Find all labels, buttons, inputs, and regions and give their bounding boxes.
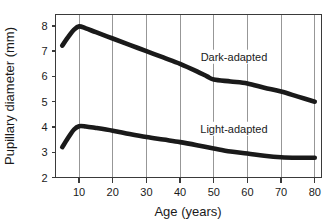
x-tick-label-10: 10 [73,186,85,198]
pupillary-diameter-chart: 1020304050607080 2345678 Dark-adaptedLig… [0,0,333,224]
y-tick-label-2: 2 [41,172,47,184]
x-tick-label-80: 80 [309,186,321,198]
curve-dark-adapted [62,26,315,101]
y-axis-tick-labels: 2345678 [41,20,47,184]
x-tick-label-30: 30 [140,186,152,198]
x-axis-tickmarks [79,178,315,183]
x-axis-title: Age (years) [154,204,221,219]
y-tick-label-5: 5 [41,96,47,108]
y-tick-label-3: 3 [41,146,47,158]
y-tick-label-6: 6 [41,70,47,82]
x-tick-label-40: 40 [174,186,186,198]
series-label-light-adapted: Light-adapted [200,123,267,135]
y-axis-title: Pupillary diameter (mm) [2,27,17,165]
y-tick-label-7: 7 [41,45,47,57]
series-inline-labels: Dark-adaptedLight-adapted [193,50,276,136]
x-tick-label-60: 60 [241,186,253,198]
chart-canvas: 1020304050607080 2345678 Dark-adaptedLig… [0,0,333,224]
x-tick-label-20: 20 [107,186,119,198]
series-label-dark-adapted: Dark-adapted [201,51,268,63]
y-tick-label-4: 4 [41,121,47,133]
y-tick-label-8: 8 [41,20,47,32]
plot-frame [56,15,322,178]
x-axis-tick-labels: 1020304050607080 [73,186,321,198]
series-curves [62,26,315,157]
x-tick-label-70: 70 [275,186,287,198]
x-tick-label-50: 50 [208,186,220,198]
curve-light-adapted [62,126,315,158]
